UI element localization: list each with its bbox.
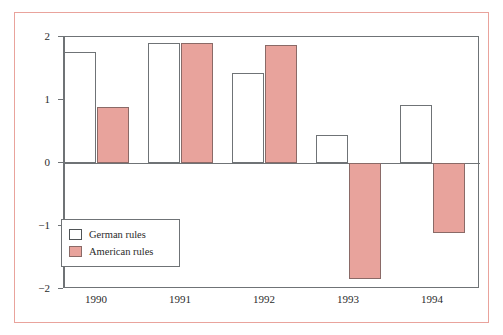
x-tick-label-1993: 1993 [337, 293, 359, 305]
bar-german-1990[interactable] [64, 52, 96, 163]
chart-legend: German rules American rules [61, 219, 180, 267]
x-tick-label-1990: 1990 [85, 293, 107, 305]
legend-label-german: German rules [89, 229, 146, 240]
y-tick-mark-minus-2 [58, 288, 63, 289]
bar-american-1990[interactable] [97, 107, 129, 163]
legend-swatch-american-icon [69, 246, 82, 257]
bar-american-1993[interactable] [349, 163, 381, 279]
y-tick-label-2: 2 [45, 30, 51, 42]
legend-item-american[interactable]: American rules [69, 243, 172, 260]
bar-american-1991[interactable] [181, 43, 213, 163]
bar-german-1991[interactable] [148, 43, 180, 163]
y-tick-label-minus-2: −2 [38, 282, 50, 294]
y-tick-label-1: 1 [45, 93, 51, 105]
x-tick-label-1994: 1994 [421, 293, 443, 305]
y-tick-label-minus-1: −1 [38, 219, 50, 231]
x-tick-label-1992: 1992 [253, 293, 275, 305]
x-tick-label-1991: 1991 [169, 293, 191, 305]
legend-label-american: American rules [89, 246, 153, 257]
legend-swatch-german-icon [69, 229, 82, 240]
bar-german-1994[interactable] [400, 105, 432, 163]
bar-american-1992[interactable] [265, 45, 297, 163]
chart-figure: 2 1 0 −1 −2 1990 1991 1992 1993 1994 [0, 0, 503, 335]
zero-baseline [64, 163, 480, 164]
bar-american-1994[interactable] [433, 163, 465, 233]
bar-german-1992[interactable] [232, 73, 264, 163]
y-tick-label-0: 0 [45, 156, 51, 168]
bar-german-1993[interactable] [316, 135, 348, 163]
legend-item-german[interactable]: German rules [69, 226, 172, 243]
y-axis-tick-labels: 2 1 0 −1 −2 [0, 0, 58, 335]
